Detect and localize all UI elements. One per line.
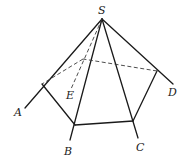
section-side-ea-hidden (42, 59, 83, 84)
label-c: C (136, 141, 145, 154)
label-b: B (63, 145, 72, 158)
section-side-bc (75, 121, 133, 125)
pyramid-diagram: S A B C D E (0, 0, 184, 166)
label-s: S (98, 4, 106, 17)
edge-sc (102, 19, 138, 138)
label-e: E (65, 89, 74, 102)
label-d: D (167, 86, 177, 99)
label-a: A (13, 106, 22, 119)
section-side-de-hidden (83, 59, 157, 71)
section-side-cd (133, 71, 157, 121)
edge-sd (102, 19, 173, 84)
